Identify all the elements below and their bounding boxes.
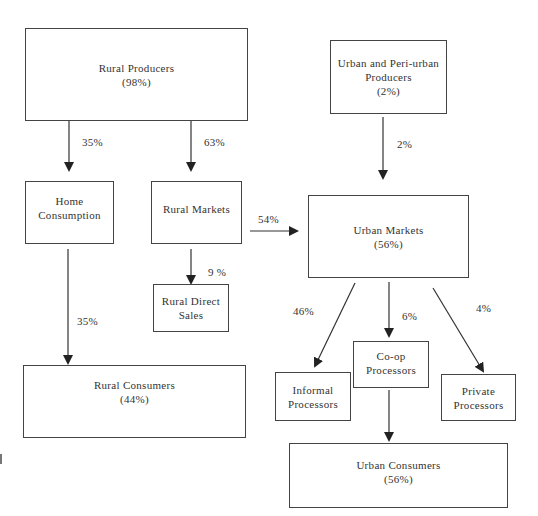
node-label: Urban Consumers	[356, 458, 440, 472]
node-rural-markets: Rural Markets	[151, 181, 242, 244]
edge-label-rural-markets-to-direct-sales: 9 %	[208, 266, 226, 278]
edge-mark	[0, 454, 2, 464]
node-label: Processors	[366, 363, 416, 377]
node-rural-direct-sales: Rural Direct Sales	[153, 284, 229, 332]
node-coop-processors: Co-op Processors	[353, 341, 429, 388]
edge-label-rural-producers-to-home: 35%	[82, 136, 103, 148]
edge-label-urban-producers-to-urban-markets: 2%	[397, 138, 412, 150]
node-urban-consumers: Urban Consumers (56%)	[289, 443, 508, 508]
node-rural-consumers: Rural Consumers (44%)	[23, 365, 246, 438]
node-share: (98%)	[122, 75, 151, 89]
edge-label-urban-markets-to-private: 4%	[476, 302, 491, 314]
edge-label-urban-markets-to-informal: 46%	[293, 305, 314, 317]
node-private-processors: Private Processors	[441, 374, 516, 421]
edge-label-rural-producers-to-rural-markets: 63%	[204, 136, 225, 148]
node-label: Consumption	[38, 208, 101, 222]
node-label: Informal	[293, 383, 334, 397]
node-rural-producers: Rural Producers (98%)	[25, 28, 248, 121]
edge-label-rural-markets-to-urban-markets: 54%	[258, 213, 279, 225]
edge-label-home-to-rural-consumers: 35%	[77, 315, 98, 327]
node-label: Co-op	[377, 349, 406, 363]
node-urban-producers: Urban and Peri-urban Producers (2%)	[330, 40, 447, 114]
node-share: (56%)	[374, 237, 403, 251]
node-label: Rural Producers	[99, 61, 175, 75]
node-share: (2%)	[377, 84, 400, 98]
arrow-urban-markets-to-informal	[315, 283, 355, 366]
node-label: Sales	[179, 308, 204, 322]
node-label: Producers	[365, 70, 412, 84]
node-urban-markets: Urban Markets (56%)	[308, 195, 469, 278]
node-share: (56%)	[384, 472, 413, 486]
arrow-urban-markets-to-private	[433, 288, 483, 371]
node-label: Rural Direct	[162, 294, 220, 308]
node-label: Private	[462, 384, 495, 398]
node-label: Rural Consumers	[94, 378, 175, 392]
node-share: (44%)	[120, 392, 149, 406]
node-label: Home	[55, 194, 83, 208]
node-label: Processors	[453, 398, 503, 412]
node-label: Urban Markets	[353, 223, 423, 237]
node-informal-processors: Informal Processors	[275, 372, 351, 421]
edge-label-urban-markets-to-coop: 6%	[402, 310, 417, 322]
node-home-consumption: Home Consumption	[25, 181, 114, 244]
node-label: Urban and Peri-urban	[338, 56, 439, 70]
node-label: Processors	[288, 397, 338, 411]
node-label: Rural Markets	[163, 202, 230, 216]
